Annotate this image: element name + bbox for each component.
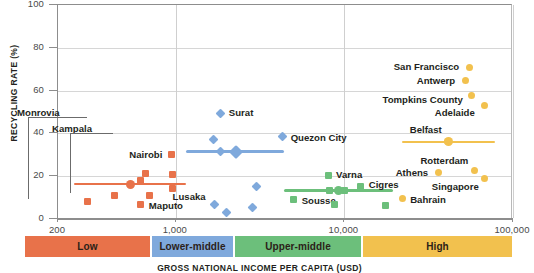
point-label: Singapore <box>432 182 479 192</box>
data-point <box>84 198 91 205</box>
data-point <box>399 195 406 202</box>
y-axis-tick <box>49 132 57 133</box>
trend-midpoint-marker <box>126 180 135 189</box>
gridline-horizontal <box>58 48 511 49</box>
x-axis-line <box>57 218 512 220</box>
gridline-vertical <box>176 5 177 218</box>
data-point <box>326 187 333 194</box>
data-point <box>341 187 348 194</box>
data-point <box>357 183 364 190</box>
data-point <box>481 102 488 109</box>
data-point <box>471 167 478 174</box>
data-point <box>462 77 469 84</box>
data-point <box>331 201 338 208</box>
point-label: Tompkins County <box>383 95 463 105</box>
data-point <box>481 175 488 182</box>
data-point <box>248 203 258 213</box>
point-label: Antwerp <box>417 76 455 86</box>
data-point <box>325 172 332 179</box>
gridline-vertical <box>344 5 345 218</box>
y-axis-tick <box>49 90 57 91</box>
income-band-low: Low <box>25 236 150 257</box>
y-axis-tick-label: 0 <box>10 212 44 223</box>
data-point <box>382 202 389 209</box>
income-band-high: High <box>363 236 512 257</box>
x-axis-tick-label: 100,000 <box>472 224 534 235</box>
gridline-vertical <box>513 5 514 218</box>
data-point <box>466 64 473 71</box>
point-label: Bahrain <box>410 195 446 205</box>
x-axis-tick <box>343 218 344 222</box>
data-point <box>216 147 226 157</box>
y-axis-tick-label: 60 <box>10 84 44 95</box>
point-label: San Francisco <box>394 62 460 72</box>
y-axis-tick-label: 40 <box>10 126 44 137</box>
x-axis-title: GROSS NATIONAL INCOME PER CAPITA (USD) <box>0 263 519 273</box>
y-axis-tick-label: 80 <box>10 41 44 52</box>
data-point <box>468 92 475 99</box>
income-band-lower-middle: Lower-middle <box>152 236 233 257</box>
x-axis-tick-label: 1,000 <box>135 224 215 235</box>
x-axis-tick <box>512 218 513 222</box>
plot-area: MonroviaKampalaMaputoNairobiSuratQuezon … <box>57 4 512 218</box>
data-point <box>146 192 153 199</box>
point-label: Athens <box>396 168 429 178</box>
y-axis-tick-label: 20 <box>10 169 44 180</box>
x-axis-tick-label: 200 <box>17 224 97 235</box>
data-point <box>137 201 144 208</box>
point-label: Rotterdam <box>420 156 468 166</box>
data-point <box>142 170 149 177</box>
x-axis-tick-label: 10,000 <box>303 224 383 235</box>
y-axis-tick <box>49 47 57 48</box>
data-point <box>137 177 144 184</box>
data-point <box>251 182 261 192</box>
point-label: Lusaka <box>173 192 206 202</box>
point-label: Nairobi <box>129 150 162 160</box>
point-label: Adelaide <box>435 108 475 118</box>
point-label: Varna <box>336 170 362 180</box>
gridline-horizontal <box>58 91 511 92</box>
point-label: Belfast <box>410 125 442 135</box>
data-point <box>168 151 175 158</box>
point-label: Quezon City <box>291 133 347 143</box>
point-label: Cigres <box>369 180 399 190</box>
data-point <box>216 108 226 118</box>
x-axis-tick <box>57 218 58 222</box>
y-axis-tick <box>49 4 57 5</box>
income-band-upper-middle: Upper-middle <box>235 236 361 257</box>
data-point <box>222 207 232 217</box>
label-leader-line <box>70 133 113 134</box>
data-point <box>210 200 220 210</box>
label-leader-line <box>28 117 87 118</box>
data-point <box>111 192 118 199</box>
point-label: Maputo <box>149 201 183 211</box>
gridline-horizontal <box>58 176 511 177</box>
data-point <box>209 135 219 145</box>
data-point <box>169 171 176 178</box>
y-axis-tick-label: 100 <box>10 0 44 9</box>
y-axis-tick <box>49 175 57 176</box>
label-leader-line <box>70 133 71 193</box>
data-point <box>290 196 297 203</box>
y-axis-tick <box>49 218 57 219</box>
x-axis-tick <box>175 218 176 222</box>
trend-midpoint-marker <box>229 145 243 159</box>
point-label: Surat <box>229 108 254 118</box>
